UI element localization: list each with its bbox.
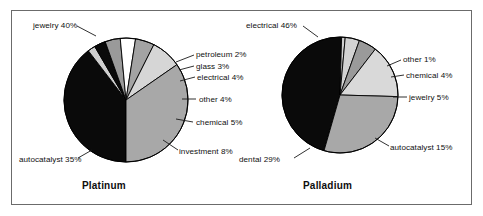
leader-platinum-petroleum <box>176 55 194 62</box>
platinum-chart-title: Platinum <box>82 180 126 191</box>
palladium-chart-title: Palladium <box>303 180 352 191</box>
palladium-label-autocatalyst: autocatalyst 15% <box>390 143 452 152</box>
figure-canvas: jewelry 40% petroleum 2% glass 3% electr… <box>0 0 483 216</box>
palladium-slice-group <box>282 37 398 153</box>
leader-palladium-dental <box>294 148 310 158</box>
palladium-label-electrical: electrical 46% <box>246 21 297 30</box>
platinum-label-petroleum: petroleum 2% <box>196 50 247 59</box>
pie-chart-layer <box>0 0 483 216</box>
platinum-label-electrical: electrical 4% <box>197 73 244 82</box>
palladium-label-dental: dental 29% <box>239 155 280 164</box>
palladium-label-other: other 1% <box>403 55 436 64</box>
platinum-label-chemical: chemical 5% <box>196 118 242 127</box>
platinum-label-autocatalyst: autocatalyst 35% <box>19 155 81 164</box>
platinum-label-investment: investment 8% <box>179 147 233 156</box>
platinum-label-jewelry: jewelry 40% <box>33 21 77 30</box>
leader-palladium-autocatalyst <box>375 138 389 146</box>
platinum-slice-group <box>64 38 188 162</box>
leader-platinum-glass <box>179 66 194 70</box>
platinum-label-glass: glass 3% <box>196 62 229 71</box>
leader-palladium-electrical <box>303 26 318 37</box>
leader-platinum-jewelry <box>77 26 96 36</box>
leader-palladium-other <box>387 60 401 66</box>
palladium-label-chemical: chemical 4% <box>406 71 452 80</box>
platinum-label-other: other 4% <box>199 95 232 104</box>
palladium-label-jewelry: jewelry 5% <box>409 93 449 102</box>
